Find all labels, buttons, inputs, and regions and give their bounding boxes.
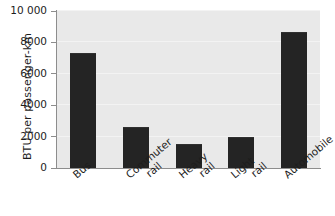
bar xyxy=(70,53,96,168)
y-axis-tick xyxy=(51,168,57,169)
gridline xyxy=(57,10,320,11)
bar-top-edge xyxy=(70,53,96,54)
y-axis-tick-label: 10 000 xyxy=(10,5,47,15)
y-axis-tick xyxy=(51,11,57,12)
bar-top-edge xyxy=(176,144,202,145)
y-axis-tick-label: 0 xyxy=(40,162,47,172)
y-axis-tick xyxy=(51,105,57,106)
y-axis-tick-label: 2000 xyxy=(20,131,47,141)
bar-top-edge xyxy=(228,137,254,138)
y-axis-tick xyxy=(51,136,57,137)
y-axis-tick-label: 4000 xyxy=(20,99,47,109)
bar xyxy=(281,32,307,168)
y-axis-tick-label: 6000 xyxy=(20,68,47,78)
bar-top-edge xyxy=(281,32,307,33)
y-axis-tick xyxy=(51,42,57,43)
y-axis-tick xyxy=(51,73,57,74)
bar-top-edge xyxy=(123,127,149,128)
y-axis-tick-label: 8000 xyxy=(20,36,47,46)
plot-area xyxy=(57,11,320,168)
y-axis-line xyxy=(56,10,57,169)
